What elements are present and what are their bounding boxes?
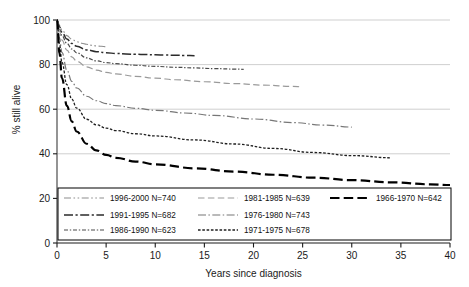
survival-curve-1996-2000 [57, 20, 106, 47]
x-axis-ticks: 0510152025303540 [54, 243, 456, 261]
x-tick-label: 10 [150, 250, 162, 261]
y-tick-label: 40 [39, 148, 51, 159]
legend-label-1971-1975: 1971-1975 N=678 [244, 226, 310, 235]
x-tick-label: 40 [444, 250, 456, 261]
x-tick-label: 5 [103, 250, 109, 261]
survival-curves-group [57, 20, 450, 185]
y-tick-label: 80 [39, 59, 51, 70]
chart-canvas: 020406080100 0510152025303540 1996-2000 … [0, 0, 469, 287]
x-tick-label: 25 [297, 250, 309, 261]
y-tick-label: 60 [39, 104, 51, 115]
legend-label-1996-2000: 1996-2000 N=740 [110, 194, 176, 203]
survival-chart-figure: 020406080100 0510152025303540 1996-2000 … [0, 0, 469, 287]
survival-curve-1966-1970 [57, 20, 450, 185]
y-tick-label: 0 [44, 238, 50, 249]
survival-curve-1976-1980 [57, 20, 352, 127]
y-tick-label: 20 [39, 193, 51, 204]
y-axis-title: % still alive [11, 50, 22, 170]
legend-label-1981-1985: 1981-1985 N=639 [244, 194, 310, 203]
x-axis-title: Years since diagnosis [57, 268, 450, 279]
x-tick-label: 20 [248, 250, 260, 261]
y-axis-ticks: 020406080100 [33, 15, 57, 249]
legend-label-1991-1995: 1991-1995 N=682 [110, 211, 176, 220]
chart-legend: 1996-2000 N=7401981-1985 N=6391966-1970 … [58, 188, 451, 240]
x-tick-label: 30 [346, 250, 358, 261]
x-tick-label: 15 [199, 250, 211, 261]
legend-label-1966-1970: 1966-1970 N=642 [376, 194, 442, 203]
survival-curve-1986-1990 [57, 20, 244, 69]
x-tick-label: 0 [54, 250, 60, 261]
legend-label-1986-1990: 1986-1990 N=623 [110, 226, 176, 235]
x-tick-label: 35 [395, 250, 407, 261]
y-tick-label: 100 [33, 15, 50, 26]
survival-curve-1971-1975 [57, 20, 391, 158]
survival-curve-1981-1985 [57, 20, 303, 87]
survival-curve-1991-1995 [57, 20, 195, 56]
gridlines-group [57, 20, 450, 198]
legend-label-1976-1980: 1976-1980 N=743 [244, 211, 310, 220]
